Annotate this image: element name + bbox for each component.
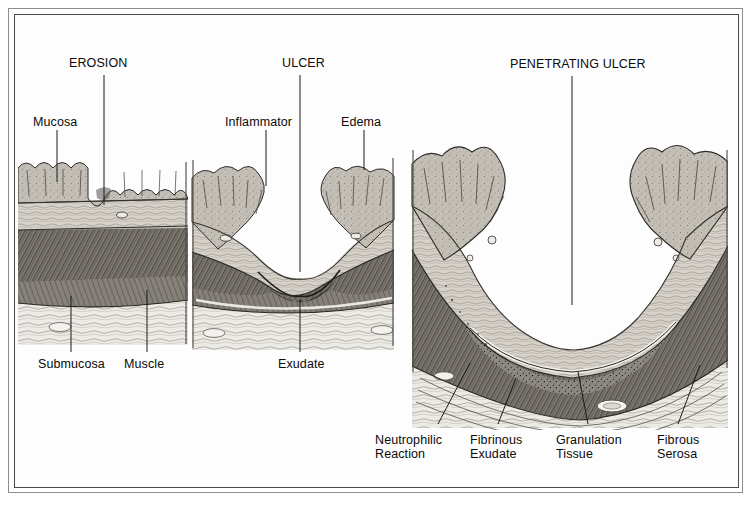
callout-fibrinous-exudate: Fibrinous Exudate <box>470 434 522 461</box>
callout-granulation-tissue: Granulation Tissue <box>556 434 622 461</box>
panel-title-ulcer: ULCER <box>282 56 325 70</box>
panel-ulcer-tissue <box>192 158 394 350</box>
callout-muscle: Muscle <box>124 357 164 371</box>
callout-inflammator: Inflammator <box>225 115 292 129</box>
callout-fibrous-serosa: Fibrous Serosa <box>657 434 699 461</box>
panel-title-penetrating-ulcer: PENETRATING ULCER <box>510 57 646 71</box>
callout-submucosa: Submucosa <box>38 357 105 371</box>
panel-title-erosion: EROSION <box>69 56 127 70</box>
callout-exudate: Exudate <box>278 357 325 371</box>
panel-penetrating-ulcer-tissue <box>412 145 728 444</box>
callout-edema: Edema <box>341 115 381 129</box>
illustration-plate: EROSIONULCERPENETRATING ULCER MucosaInfl… <box>0 0 749 509</box>
callout-neutrophilic-reaction: Neutrophilic Reaction <box>375 434 442 461</box>
callout-mucosa: Mucosa <box>33 115 77 129</box>
panel-erosion-tissue <box>18 162 188 345</box>
